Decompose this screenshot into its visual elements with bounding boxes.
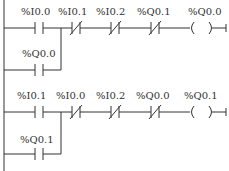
- contact-label: %I0.1: [17, 90, 46, 101]
- rung-1: %I0.0 %I0.1 %I0.2 %Q0.1: [4, 6, 226, 76]
- contact-label: %I0.0: [56, 90, 85, 101]
- rung-2: %I0.1 %I0.0 %I0.2 %Q0.0 %Q0.1: [4, 90, 226, 160]
- coil-label: %Q0.1: [184, 90, 218, 101]
- coil-label: %Q0.0: [188, 6, 222, 17]
- contact-label: %Q0.0: [136, 90, 170, 101]
- coil-icon: [192, 106, 227, 118]
- no-contact-icon: [35, 22, 43, 34]
- branch-contact-label: %Q0.1: [20, 134, 54, 145]
- contact-label: %I0.1: [58, 6, 87, 17]
- contact-label: %Q0.1: [137, 6, 171, 17]
- contact-label: %I0.2: [96, 90, 125, 101]
- no-contact-icon: [35, 106, 43, 118]
- branch-contact-label: %Q0.0: [22, 48, 56, 59]
- contact-label: %I0.0: [21, 6, 50, 17]
- coil-icon: [192, 22, 227, 34]
- no-contact-icon: [35, 148, 43, 160]
- no-contact-icon: [35, 64, 43, 76]
- ladder-diagram: %I0.0 %I0.1 %I0.2 %Q0.1: [0, 0, 229, 171]
- contact-label: %I0.2: [96, 6, 125, 17]
